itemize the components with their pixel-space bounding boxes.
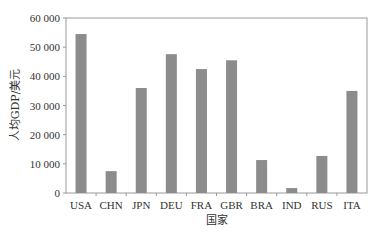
- y-axis-ticks: 010 00020 00030 00040 00050 00060 000: [30, 12, 66, 199]
- y-tick-label: 60 000: [30, 12, 61, 24]
- y-tick-label: 40 000: [30, 70, 61, 82]
- x-tick-label: CHN: [100, 199, 123, 211]
- bar-usa: [76, 34, 87, 193]
- x-axis-title: 国家: [206, 213, 228, 227]
- bar-ind: [286, 188, 297, 193]
- y-tick-label: 50 000: [30, 41, 61, 53]
- x-tick-label: JPN: [132, 199, 150, 211]
- bar-rus: [316, 156, 327, 193]
- x-tick-label: ITA: [343, 199, 361, 211]
- bar-gbr: [226, 60, 237, 193]
- x-tick-label: GBR: [220, 199, 243, 211]
- bar-chn: [106, 171, 117, 193]
- bar-jpn: [136, 88, 147, 193]
- bar-chart: 010 00020 00030 00040 00050 00060 000 US…: [0, 0, 375, 235]
- x-tick-label: IND: [282, 199, 302, 211]
- x-tick-label: DEU: [160, 199, 183, 211]
- y-tick-label: 0: [55, 187, 61, 199]
- x-tick-label: BRA: [250, 199, 273, 211]
- x-tick-label: FRA: [191, 199, 212, 211]
- bar-deu: [166, 54, 177, 193]
- y-tick-label: 20 000: [30, 129, 61, 141]
- x-tick-label: RUS: [311, 199, 332, 211]
- y-axis-title: 人均GDP/美元: [9, 69, 22, 142]
- bar-bra: [256, 160, 267, 193]
- bar-fra: [196, 69, 207, 193]
- x-tick-label: USA: [70, 199, 92, 211]
- x-axis-ticks: USACHNJPNDEUFRAGBRBRAINDRUSITA: [70, 193, 361, 211]
- bars: [76, 34, 358, 193]
- y-tick-label: 30 000: [30, 100, 61, 112]
- y-tick-label: 10 000: [30, 158, 61, 170]
- bar-ita: [346, 91, 357, 193]
